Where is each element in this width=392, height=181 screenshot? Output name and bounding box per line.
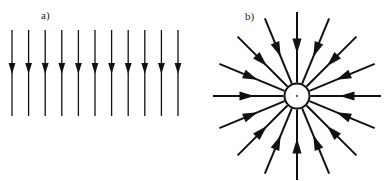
panel-radial-field: b) <box>196 0 392 181</box>
field-arrow-inward <box>265 18 292 83</box>
arrow-head <box>125 63 132 74</box>
arrow-head <box>271 135 281 151</box>
field-arrow-inward <box>238 37 288 87</box>
arrow-head <box>340 91 355 100</box>
arrow-head <box>271 41 281 57</box>
field-arrow-down <box>25 30 32 116</box>
arrow-head <box>75 63 82 74</box>
field-arrow-inward <box>265 108 292 173</box>
radial-field-diagram <box>196 0 392 181</box>
arrow-head <box>158 63 165 74</box>
arrow-head <box>292 38 301 53</box>
field-arrow-inward <box>309 64 374 91</box>
field-arrow-inward <box>292 12 301 83</box>
arrow-head <box>25 63 32 74</box>
field-arrow-down <box>75 30 82 116</box>
panel-a-label: a) <box>41 10 50 21</box>
arrow-head <box>58 63 65 74</box>
panel-b-label: b) <box>245 11 254 22</box>
field-arrow-inward <box>311 91 382 100</box>
center-dot <box>296 95 298 97</box>
arrow-head <box>175 63 182 74</box>
arrow-head <box>336 112 352 122</box>
arrow-head <box>242 70 258 80</box>
arrow-head <box>42 63 49 74</box>
field-arrow-inward <box>238 106 288 156</box>
figure-root: a) b) <box>0 0 392 181</box>
field-arrow-inward <box>307 106 357 156</box>
arrow-head <box>9 63 16 74</box>
panel-uniform-field: a) <box>0 0 196 181</box>
arrow-head <box>292 139 301 154</box>
field-arrow-down <box>141 30 148 116</box>
uniform-arrow-group <box>9 30 182 116</box>
arrow-head <box>92 63 99 74</box>
field-arrow-inward <box>307 37 357 87</box>
arrow-head <box>242 112 258 122</box>
field-arrow-down <box>158 30 165 116</box>
arrow-head <box>239 91 254 100</box>
field-arrow-inward <box>302 108 329 173</box>
arrow-head <box>313 135 323 151</box>
field-arrow-inward <box>219 64 284 91</box>
arrow-head <box>141 63 148 74</box>
field-arrow-down <box>9 30 16 116</box>
field-arrow-down <box>108 30 115 116</box>
field-arrow-inward <box>309 101 374 128</box>
arrow-head <box>108 63 115 74</box>
field-arrow-down <box>42 30 49 116</box>
field-arrow-down <box>125 30 132 116</box>
uniform-field-diagram <box>0 0 196 181</box>
field-arrow-down <box>175 30 182 116</box>
field-arrow-inward <box>292 110 301 181</box>
arrow-head <box>313 41 323 57</box>
field-arrow-down <box>58 30 65 116</box>
field-arrow-inward <box>219 101 284 128</box>
field-arrow-inward <box>302 18 329 83</box>
field-arrow-inward <box>213 91 284 100</box>
arrow-head <box>336 70 352 80</box>
field-arrow-down <box>92 30 99 116</box>
